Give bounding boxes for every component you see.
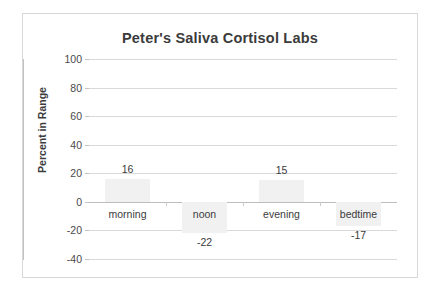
y-tick-mark — [85, 230, 89, 231]
y-tick-label: 80 — [70, 82, 82, 94]
bar[interactable] — [259, 180, 304, 201]
y-tick-label: -40 — [67, 253, 82, 265]
bar-value-label: 16 — [122, 163, 134, 175]
y-tick-mark — [85, 259, 89, 260]
y-tick-label: -20 — [67, 224, 82, 236]
plot-area: 100806040200-20-40 16-2215-17 morningnoo… — [89, 59, 397, 259]
x-tick-mark — [320, 202, 321, 206]
bar-value-label: -17 — [351, 229, 366, 241]
y-tick-mark — [85, 59, 89, 60]
category-label: evening — [263, 208, 300, 220]
category-label: bedtime — [340, 208, 377, 220]
y-tick-label: 40 — [70, 139, 82, 151]
bar-value-label: 15 — [276, 164, 288, 176]
gridline — [89, 88, 397, 89]
y-tick-mark — [85, 116, 89, 117]
gridline — [89, 259, 397, 260]
chart-title: Peter's Saliva Cortisol Labs — [23, 30, 417, 46]
bar[interactable] — [105, 179, 150, 202]
y-axis-title: Percent in Range — [36, 70, 48, 190]
x-tick-mark — [243, 202, 244, 206]
gridline — [89, 116, 397, 117]
y-tick-label: 0 — [76, 196, 82, 208]
x-tick-mark — [166, 202, 167, 206]
bar-value-label: -22 — [197, 236, 212, 248]
y-axis-line — [23, 59, 24, 260]
y-tick-mark — [85, 88, 89, 89]
gridline — [89, 173, 397, 174]
category-label: noon — [193, 208, 216, 220]
chart-frame: Peter's Saliva Cortisol Labs Percent in … — [22, 13, 418, 278]
y-tick-mark — [85, 173, 89, 174]
y-tick-label: 20 — [70, 167, 82, 179]
gridline — [89, 59, 397, 60]
gridline — [89, 145, 397, 146]
y-tick-mark — [85, 202, 89, 203]
y-tick-label: 100 — [64, 53, 82, 65]
y-tick-label: 60 — [70, 110, 82, 122]
y-tick-mark — [85, 145, 89, 146]
category-label: morning — [109, 208, 147, 220]
